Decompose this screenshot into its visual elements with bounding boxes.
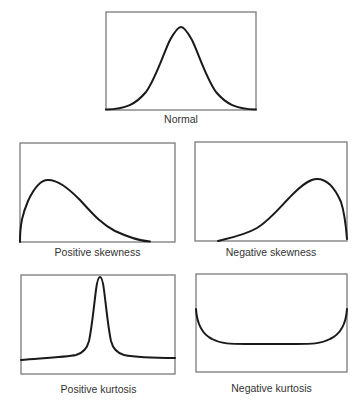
plot-frame bbox=[196, 274, 347, 372]
caption-positive-skewness: Positive skewness bbox=[20, 246, 175, 258]
negative-skew-curve bbox=[218, 179, 347, 241]
negative-skewness-plot bbox=[195, 142, 347, 242]
negative-kurtosis-plot bbox=[196, 274, 347, 373]
caption-normal: Normal bbox=[106, 113, 256, 125]
normal-curve bbox=[106, 27, 256, 110]
panel-positive-skewness: Positive skewness bbox=[20, 143, 175, 242]
positive-skew-curve bbox=[20, 180, 150, 242]
panel-positive-kurtosis: Positive kurtosis bbox=[21, 275, 176, 374]
positive-kurtosis-plot bbox=[21, 275, 176, 374]
caption-negative-kurtosis: Negative kurtosis bbox=[196, 382, 347, 394]
plot-frame bbox=[195, 142, 347, 241]
plot-frame bbox=[20, 143, 175, 242]
normal-distribution-plot bbox=[106, 12, 256, 111]
panel-normal: Normal bbox=[106, 12, 256, 111]
positive-skewness-plot bbox=[20, 143, 175, 242]
caption-negative-skewness: Negative skewness bbox=[195, 246, 347, 258]
panel-negative-kurtosis: Negative kurtosis bbox=[196, 274, 347, 373]
panel-negative-skewness: Negative skewness bbox=[195, 142, 347, 242]
leptokurtic-curve bbox=[21, 277, 175, 360]
platykurtic-curve bbox=[196, 309, 347, 344]
caption-positive-kurtosis: Positive kurtosis bbox=[21, 383, 176, 395]
